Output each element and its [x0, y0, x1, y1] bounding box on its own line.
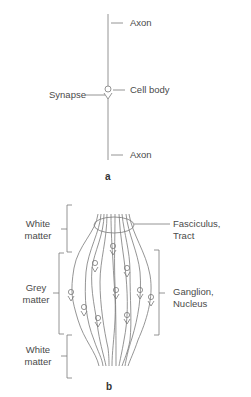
label-axon-bottom: Axon	[130, 149, 152, 161]
panel-a-neuron	[85, 14, 125, 160]
label-axon-top: Axon	[130, 17, 152, 29]
neuron-diagram	[0, 0, 251, 397]
synapse-icon	[104, 93, 112, 99]
label-synapse: Synapse	[49, 89, 86, 101]
nerve-fibers	[72, 214, 151, 366]
label-ganglion-nucleus: Ganglion, Nucleus	[173, 286, 214, 310]
label-cell-body: Cell body	[130, 84, 170, 96]
cell-body-icon	[105, 86, 111, 92]
label-white-matter-top: White matter	[20, 218, 56, 242]
label-white-matter-bottom: White matter	[20, 344, 56, 368]
panel-a-letter: a	[105, 171, 111, 182]
cell-bodies	[68, 243, 154, 327]
panel-b-letter: b	[106, 381, 112, 392]
label-fasciculus-tract: Fasciculus, Tract	[173, 218, 221, 242]
label-grey-matter: Grey matter	[18, 282, 54, 306]
brackets	[53, 205, 165, 378]
